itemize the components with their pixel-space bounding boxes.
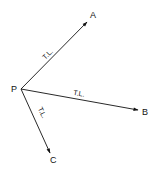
endpoint-label-b: B <box>142 107 148 117</box>
line-pa <box>21 22 87 89</box>
true-length-label-pa: T.L. <box>41 48 54 61</box>
line-pc <box>21 89 50 153</box>
endpoint-label-a: A <box>90 10 96 20</box>
true-length-label-pb: T.L. <box>73 89 85 98</box>
vector-pc: T.L. C <box>21 89 57 165</box>
true-length-label-pc: T.L. <box>37 106 48 119</box>
endpoint-label-c: C <box>50 155 57 165</box>
vector-pa: T.L. A <box>21 10 96 89</box>
vector-diagram: P T.L. A T.L. B T.L. C <box>0 0 157 175</box>
origin-label-p: P <box>11 84 17 94</box>
